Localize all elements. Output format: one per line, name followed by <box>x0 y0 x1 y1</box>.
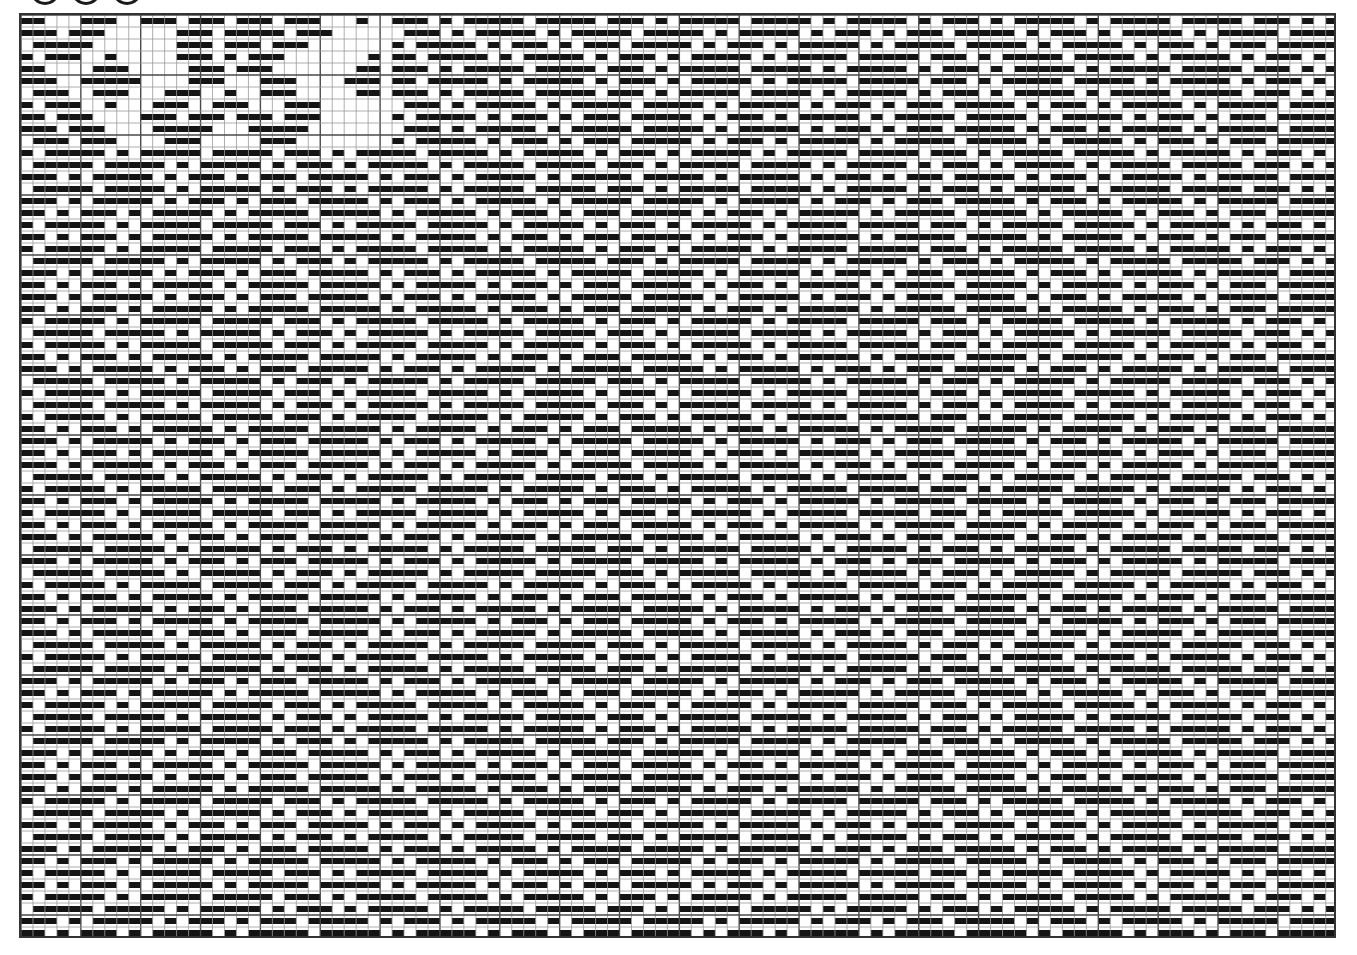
float-bar <box>548 294 560 300</box>
float-bar <box>488 594 500 600</box>
float-bar <box>272 738 284 744</box>
float-bar <box>464 330 524 336</box>
float-bar <box>560 786 572 792</box>
float-bar <box>811 630 823 636</box>
float-bar <box>153 762 213 768</box>
float-bar <box>1015 834 1075 840</box>
float-bar <box>141 894 201 900</box>
float-bar <box>895 618 955 624</box>
float-bar <box>1254 834 1290 840</box>
float-bar <box>823 570 835 576</box>
float-bar <box>1182 642 1242 648</box>
float-bar <box>105 546 165 552</box>
float-bar <box>1314 150 1326 156</box>
float-bar <box>177 906 189 912</box>
float-bar <box>177 474 189 480</box>
float-bar <box>45 654 105 660</box>
float-bar <box>248 126 308 132</box>
float-bar <box>1003 486 1063 492</box>
float-bar <box>500 222 512 228</box>
float-bar <box>1266 318 1302 324</box>
float-bar <box>799 618 859 624</box>
float-bar <box>679 666 739 672</box>
float-bar <box>631 234 691 240</box>
float-bar <box>991 474 1003 480</box>
float-bar <box>404 606 440 612</box>
float-bar <box>943 642 979 648</box>
float-bar <box>488 234 500 240</box>
float-bar <box>69 270 81 276</box>
float-bar <box>1062 42 1122 48</box>
float-bar <box>296 642 332 648</box>
float-bar <box>620 246 656 252</box>
float-bar <box>224 210 236 216</box>
float-bar <box>739 630 799 636</box>
float-bar <box>1134 690 1146 696</box>
float-bar <box>919 66 931 72</box>
float-bar <box>1086 18 1098 24</box>
float-bar <box>1050 30 1086 36</box>
float-bar <box>847 570 907 576</box>
float-bar <box>572 558 632 564</box>
float-bar <box>823 714 835 720</box>
float-bar <box>548 270 560 276</box>
float-bar <box>979 318 991 324</box>
float-bar <box>907 462 943 468</box>
float-bar <box>344 186 356 192</box>
float-bar <box>775 306 787 312</box>
float-bar <box>1194 366 1206 372</box>
float-bar <box>45 342 105 348</box>
float-bar <box>380 822 392 828</box>
float-bar <box>1302 666 1314 672</box>
float-bar <box>871 114 883 120</box>
float-bar <box>835 630 871 636</box>
float-bar <box>991 738 1003 744</box>
float-bar <box>476 918 536 924</box>
float-bar <box>679 834 739 840</box>
float-bar <box>991 834 1003 840</box>
float-bar <box>177 186 189 192</box>
float-bar <box>979 54 991 60</box>
float-bar <box>1122 822 1182 828</box>
float-bar <box>476 630 536 636</box>
float-bar <box>512 426 548 432</box>
float-bar <box>548 918 560 924</box>
float-bar <box>404 270 440 276</box>
float-bar <box>955 534 1015 540</box>
float-bar <box>703 138 715 144</box>
float-bar <box>1050 462 1086 468</box>
float-bar <box>643 462 703 468</box>
float-bar <box>69 294 81 300</box>
float-bar <box>1206 306 1218 312</box>
float-bar <box>392 498 404 504</box>
float-bar <box>344 258 356 264</box>
float-bar <box>1015 378 1075 384</box>
float-bar <box>500 510 512 516</box>
float-bar <box>967 858 1027 864</box>
float-bar <box>1134 522 1146 528</box>
float-bar <box>1122 102 1182 108</box>
float-bar <box>871 210 883 216</box>
float-bar <box>1110 810 1170 816</box>
float-bar <box>631 762 691 768</box>
float-bar <box>380 198 392 204</box>
float-bar <box>979 246 991 252</box>
float-bar <box>416 858 476 864</box>
float-bar <box>1050 294 1086 300</box>
float-bar <box>1194 102 1206 108</box>
float-bar <box>631 114 691 120</box>
float-bar <box>1230 42 1266 48</box>
float-bar <box>500 654 512 660</box>
float-bar <box>153 498 213 504</box>
float-bar <box>787 414 847 420</box>
float-bar <box>967 930 1027 936</box>
float-bar <box>572 534 632 540</box>
float-bar <box>1098 846 1110 852</box>
float-bar <box>1230 114 1266 120</box>
float-bar <box>1254 570 1290 576</box>
float-bar <box>727 114 763 120</box>
float-bar <box>500 318 512 324</box>
float-bar <box>967 762 1027 768</box>
float-bar <box>81 18 117 24</box>
float-bar <box>1122 198 1182 204</box>
